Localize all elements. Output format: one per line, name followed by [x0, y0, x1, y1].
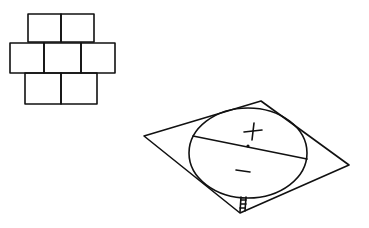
plus-sign-icon	[244, 123, 262, 140]
brick-grid	[10, 14, 115, 104]
chord-midpoint-dot	[246, 144, 249, 147]
brick-middle-right	[81, 43, 115, 73]
brick-bottom-left	[25, 73, 61, 104]
minus-sign-icon	[236, 170, 250, 172]
brick-top-left	[28, 14, 61, 42]
brick-bottom-right	[61, 73, 97, 104]
chord-line	[193, 136, 307, 159]
ladder-mark-icon	[240, 197, 246, 212]
brick-middle-center	[44, 43, 81, 73]
rhombus	[144, 101, 349, 213]
figure-canvas: + −	[0, 0, 369, 228]
rhombus-diagram	[144, 101, 349, 213]
inscribed-ellipse	[189, 108, 307, 198]
brick-top-right	[61, 14, 94, 42]
brick-middle-left	[10, 43, 44, 73]
